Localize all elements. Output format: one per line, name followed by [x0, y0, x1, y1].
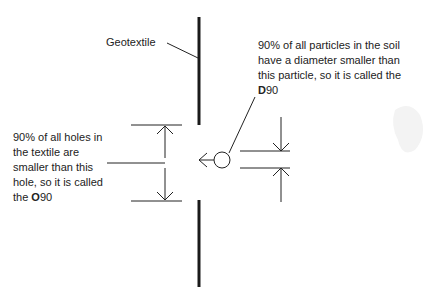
hole-dimension: [107, 125, 182, 201]
geotextile-label: Geotextile: [106, 35, 156, 50]
particle-group: [199, 97, 255, 168]
hole-symbol-letter: O: [31, 191, 40, 203]
hole-note-text: 90% of all holes in the textile are smal…: [13, 131, 103, 203]
particle-circle: [214, 152, 230, 168]
hole-symbol-number: 90: [40, 191, 52, 203]
particle-note: 90% of all particles in the soil have a …: [258, 38, 418, 98]
scan-smudge: [393, 106, 423, 152]
particle-note-text: 90% of all particles in the soil have a …: [258, 39, 401, 81]
particle-symbol-letter: D: [258, 84, 266, 96]
hole-note: 90% of all holes in the textile are smal…: [13, 130, 113, 205]
particle-leader-line: [229, 97, 255, 153]
geotextile-leader-line: [167, 43, 198, 58]
particle-dimension: [240, 117, 290, 202]
particle-symbol-number: 90: [266, 84, 278, 96]
